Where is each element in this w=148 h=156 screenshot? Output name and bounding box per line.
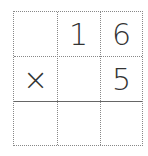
cell-r1-c2: 5 xyxy=(100,57,143,102)
cell-r0-c0 xyxy=(14,12,57,57)
cell-r2-c2 xyxy=(100,102,143,147)
cell-r2-c0 xyxy=(14,102,57,147)
multiplication-grid: 1 6 × 5 xyxy=(13,11,143,146)
cell-r0-c2: 6 xyxy=(100,12,143,57)
cell-r2-c1 xyxy=(57,102,100,147)
cell-r1-c1 xyxy=(57,57,100,102)
multiply-sign: × xyxy=(23,65,48,95)
cell-r1-c0: × xyxy=(14,57,57,102)
cell-r0-c1: 1 xyxy=(57,12,100,57)
